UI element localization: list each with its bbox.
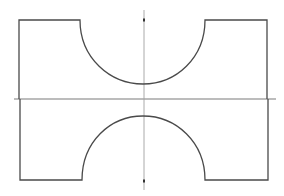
diagram-canvas: Symmetric profile with semicircular notc… (0, 0, 284, 196)
vertical-axis-top-marker (143, 19, 145, 22)
upper-outline (19, 20, 267, 99)
vertical-axis-bottom-marker (143, 180, 145, 183)
diagram-svg (0, 0, 284, 196)
